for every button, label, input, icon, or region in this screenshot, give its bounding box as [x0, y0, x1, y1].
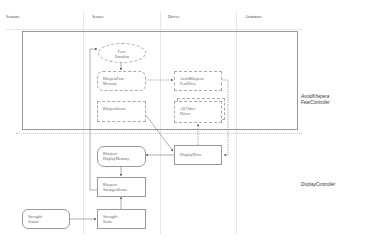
- node-label: FearDrive: [180, 81, 216, 86]
- khepera-fear-memory-node[interactable]: KheperaFear- Memory: [97, 71, 146, 91]
- fear-emotion-node[interactable]: Fear- Emotion: [98, 43, 146, 63]
- node-label: DisplayMemory: [103, 156, 140, 161]
- strength-sense-node[interactable]: Strength- Sense: [97, 209, 146, 229]
- display-drive-node[interactable]: DisplayDrive: [174, 145, 222, 165]
- node-label: Sense: [103, 219, 140, 224]
- khepera-strongest-sense-node[interactable]: Khepera- StrongestSense: [97, 177, 146, 197]
- avoid-khepera-fear-drive-node[interactable]: AvoidKhepera- FearDrive: [174, 71, 222, 91]
- node-label: StrongestSense: [103, 187, 140, 192]
- node-label: Emotion: [104, 54, 140, 59]
- strength-sensor-node[interactable]: Strength- Sensor: [22, 209, 70, 229]
- node-label: Sensor: [28, 219, 64, 224]
- node-label: DisplayDrive: [180, 152, 216, 157]
- node-label: KheperaSense: [103, 106, 140, 111]
- all-other-drives-node[interactable]: All Other Drives: [174, 101, 222, 123]
- node-label: Drives: [180, 111, 216, 116]
- khepera-sense-node[interactable]: KheperaSense: [97, 101, 146, 122]
- node-label: Memory: [103, 81, 140, 86]
- display-controller-label: DisplayController: [301, 182, 335, 188]
- avoid-khepera-fear-controller-label: AvoidKhepera FearController: [301, 94, 330, 106]
- controller-label-line: FearController: [301, 100, 330, 106]
- khepera-display-memory-node[interactable]: Khepera- DisplayMemory: [97, 146, 146, 167]
